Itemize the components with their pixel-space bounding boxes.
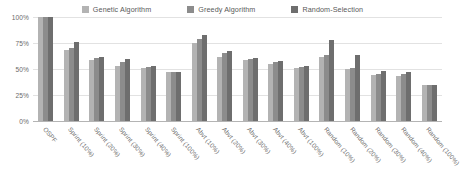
x-axis-tick: Abvt (100%) (289, 121, 315, 193)
bar-group (186, 17, 212, 121)
x-axis-tick: Sprint (20%) (84, 121, 110, 193)
bar (304, 66, 309, 121)
bar-group (135, 17, 161, 121)
bar-group (391, 17, 417, 121)
bar (74, 42, 79, 121)
legend-swatch-icon (82, 6, 89, 13)
chart-legend: Genetic AlgorithmGreedy AlgorithmRandom-… (0, 2, 445, 16)
legend-swatch-icon (187, 6, 194, 13)
y-axis-tick-label: 100% (12, 14, 29, 21)
legend-label: Greedy Algorithm (198, 5, 255, 14)
bar (125, 59, 130, 121)
x-axis-tick: Abvt (30%) (238, 121, 264, 193)
bar-series-container (33, 17, 442, 121)
bar (48, 17, 53, 121)
bar (432, 85, 437, 121)
bar (253, 58, 258, 121)
x-axis-tick: Random (10%) (314, 121, 340, 193)
bar (406, 72, 411, 121)
bar-group (212, 17, 238, 121)
x-axis-tick-label: OSPF (42, 126, 59, 144)
plot-area: 100%75%50%25%0% OSPFSprint (10%)Sprint (… (0, 17, 445, 127)
bar (329, 40, 334, 121)
y-axis-tick-label: 75% (16, 40, 30, 47)
legend-label: Genetic Algorithm (93, 5, 151, 14)
bar-group (84, 17, 110, 121)
bar-group (263, 17, 289, 121)
bar-group (110, 17, 136, 121)
x-axis-tick: Sprint (10%) (59, 121, 85, 193)
bar-group (314, 17, 340, 121)
legend-item: Greedy Algorithm (187, 5, 255, 14)
bar-group (238, 17, 264, 121)
x-axis-tick: Sprint (40%) (135, 121, 161, 193)
bar (99, 57, 104, 121)
bar (227, 51, 232, 121)
bar (381, 71, 386, 121)
x-axis-tick: Random (40%) (391, 121, 417, 193)
legend-item: Genetic Algorithm (82, 5, 151, 14)
x-axis-tick: Random (100%) (416, 121, 442, 193)
y-axis-tick-label: 0% (19, 118, 29, 125)
bar (202, 35, 207, 121)
y-axis-tick-label: 25% (16, 92, 30, 99)
x-axis-tick: Sprint (30%) (110, 121, 136, 193)
bar-group (161, 17, 187, 121)
x-axis: OSPFSprint (10%)Sprint (20%)Sprint (30%)… (33, 121, 442, 193)
x-axis-tick: Random (20%) (340, 121, 366, 193)
bar (278, 61, 283, 121)
y-axis-tick-label: 50% (16, 66, 30, 73)
bar-group (289, 17, 315, 121)
legend-item: Random-Selection (291, 5, 363, 14)
x-axis-tick: Sprint (100%) (161, 121, 187, 193)
bar-group (340, 17, 366, 121)
bar-group (416, 17, 442, 121)
x-axis-tick-label: Random (100%) (425, 126, 461, 167)
legend-label: Random-Selection (302, 5, 363, 14)
bar (355, 55, 360, 121)
bar (151, 66, 156, 121)
y-axis: 100%75%50%25%0% (0, 17, 32, 121)
x-axis-tick: Abvt (20%) (212, 121, 238, 193)
bar-group (59, 17, 85, 121)
bar-group (33, 17, 59, 121)
bar-group (365, 17, 391, 121)
x-axis-tick: Abvt (10%) (186, 121, 212, 193)
x-axis-tick: Abvt (40%) (263, 121, 289, 193)
x-axis-tick: OSPF (33, 121, 59, 193)
plot-canvas (33, 17, 442, 121)
legend-swatch-icon (291, 6, 298, 13)
x-axis-tick: Random (30%) (365, 121, 391, 193)
bar (176, 72, 181, 121)
